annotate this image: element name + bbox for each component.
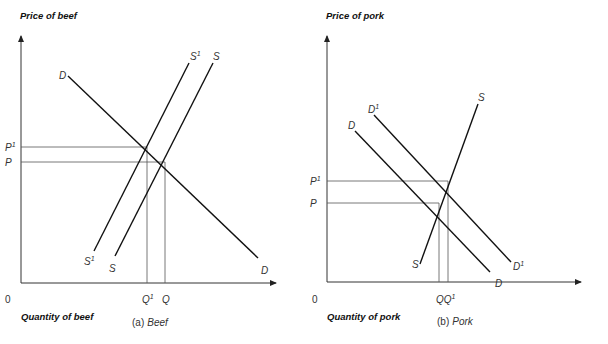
pork-supply-curve [420,104,478,264]
pork-d1-end-label: D1 [513,260,524,272]
pork-origin-label: 0 [312,294,318,305]
beef-q1-label: Q1 [142,293,154,305]
beef-origin-label: 0 [5,294,11,305]
beef-p-label: P [5,157,12,168]
beef-p1-label: P1 [5,141,16,153]
beef-s1-bottom-label: S1 [84,255,95,267]
beef-chart: Price of beef D D S1 S S1 S P1 P 0 Q1 Q … [5,10,276,328]
pork-p-label: P [310,198,317,209]
pork-p1-label: P1 [310,175,321,187]
beef-s1-top-label: S1 [190,50,201,62]
beef-supply-curve-s1 [94,63,189,251]
pork-d-top-label: D [348,120,355,131]
pork-demand-curve-d1 [374,115,511,262]
beef-q-label: Q [162,294,170,305]
pork-s-bottom-label: S [412,259,419,270]
beef-demand-curve [68,76,258,258]
pork-d1-top-label: D1 [368,103,379,115]
beef-caption: (a)Beef [132,317,169,328]
pork-y-axis-title: Price of pork [326,10,385,21]
pork-s-top-label: S [478,92,485,103]
beef-demand-end-label: D [261,265,268,276]
beef-demand-label: D [59,70,66,81]
pork-d-end-label: D [495,278,502,289]
beef-y-axis-title: Price of beef [20,10,78,21]
beef-x-axis-title: Quantity of beef [21,311,94,322]
pork-demand-curve-d [355,131,490,272]
pork-chart: Price of pork D D1 D D1 S S P1 P 0 QQ1 Q… [310,10,581,327]
beef-supply-curve-s [115,63,213,256]
pork-x-axis-title: Quantity of pork [327,311,401,322]
beef-s-top-label: S [213,51,220,62]
pork-qq1-label: QQ1 [436,293,456,305]
supply-demand-figure: Price of beef D D S1 S S1 S P1 P 0 Q1 Q … [0,0,608,344]
beef-s-bottom-label: S [109,263,116,274]
pork-caption: (b)Pork [437,316,474,327]
